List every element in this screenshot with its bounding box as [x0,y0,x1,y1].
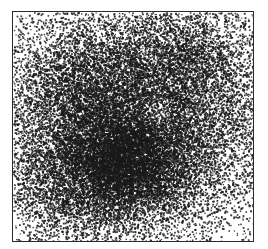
figure-xlabel [0,0,1,1]
stipple-scatter-canvas [13,12,253,241]
stipple-density-panel [12,11,254,242]
figure-description: Dense monochrome stipple of small dark p… [0,0,1,1]
figure-title [0,0,1,1]
figure-root: Dense monochrome stipple of small dark p… [0,0,268,249]
figure-ylabel [0,0,1,1]
